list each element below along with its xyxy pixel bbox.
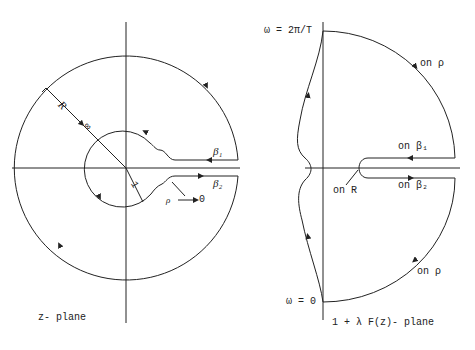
omega-bottom-label: ω = 0 [286, 297, 316, 307]
on-R-label: on R [333, 186, 357, 196]
on-rho-bottom-label: on ρ [417, 267, 441, 277]
on-beta1-label: on β₁ [398, 142, 428, 152]
rho-label: ρ [166, 196, 170, 205]
arc-on-rho-top [323, 31, 455, 158]
rho-limit-label: 0 [199, 195, 205, 205]
nyquist-curve-left [297, 31, 323, 302]
arc-on-rho-bottom [323, 178, 455, 302]
z-plane-label: z- plane [38, 313, 86, 323]
w-plane-label: 1 + λ F(z)- plane [332, 318, 434, 328]
on-beta2-label: on β₂ [398, 181, 428, 191]
omega-top-label: ω = 2π/T [264, 26, 312, 36]
inner-contour-rho [84, 131, 175, 207]
beta2-label: β₂ [213, 178, 222, 189]
diagram-canvas [0, 0, 475, 350]
beta1-label: β₁ [213, 146, 222, 157]
on-rho-top-label: on ρ [420, 59, 444, 69]
